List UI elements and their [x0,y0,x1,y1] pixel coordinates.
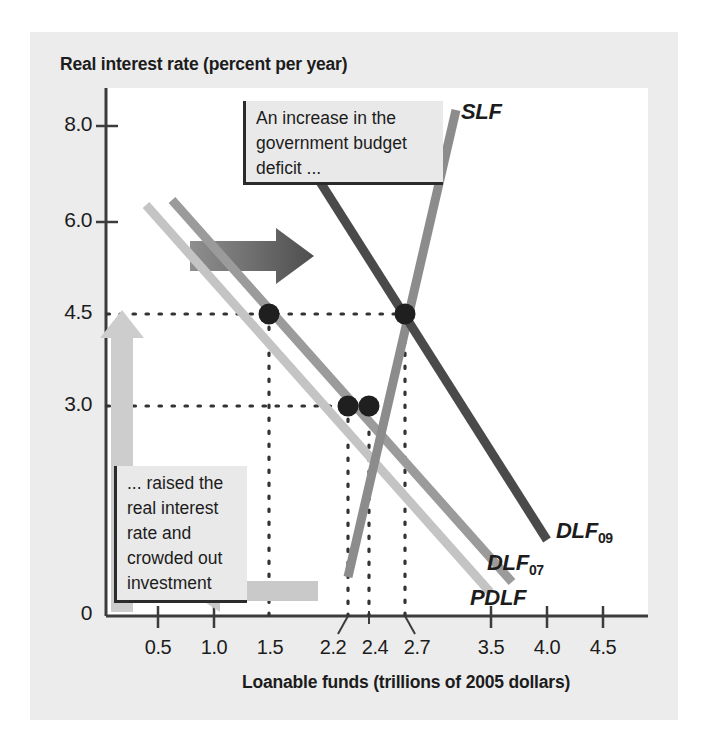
point-investment-crowded-out [259,304,280,325]
y-tick-label-4p5: 4.5 [38,300,92,324]
y-tick-label-8: 8.0 [38,112,92,136]
annotation-text-deficit-increase: An increase in the government budget def… [246,101,443,187]
x-tick-label-1p0: 1.0 [187,636,241,659]
x-axis-title: Loanable funds (trillions of 2005 dollar… [242,672,570,693]
curve-label-dlf07: DLF07 [487,550,544,578]
curve-label-dlf09: DLF09 [556,518,613,546]
point-equilibrium-2009 [395,304,416,325]
curve-label-pdlf: PDLF [470,585,526,611]
y-tick-label-0: 0 [38,601,92,625]
curve-label-dlf07-text: DLF [487,550,529,575]
point-private-investment-2009 [338,396,359,417]
x-tick-label-2p7: 2.7 [390,636,444,659]
x-tick-label-3p5: 3.5 [464,636,518,659]
point-equilibrium-2007 [359,396,380,417]
annotation-text-crowding-out: ... raised the real interest rate and cr… [117,466,247,602]
figure-page: Real interest rate (percent per year) Lo… [0,0,703,747]
curve-label-slf: SLF [461,99,502,125]
y-tick-label-3: 3.0 [38,392,92,416]
x-tick-label-4p0: 4.0 [520,636,574,659]
curve-label-dlf07-sub: 07 [529,562,544,578]
y-axis-title: Real interest rate (percent per year) [60,54,347,75]
curve-label-dlf09-text: DLF [556,518,598,543]
y-tick-label-6: 6.0 [38,208,92,232]
annotation-box-deficit-increase: An increase in the government budget def… [243,101,443,185]
curve-label-dlf09-sub: 09 [598,530,613,546]
annotation-box-crowding-out: ... raised the real interest rate and cr… [114,466,247,603]
x-leader-2p2 [338,616,348,634]
x-leader-2p7 [405,616,415,634]
x-tick-label-1p5: 1.5 [243,636,297,659]
x-tick-label-0p5: 0.5 [131,636,185,659]
x-tick-label-4p5: 4.5 [576,636,630,659]
